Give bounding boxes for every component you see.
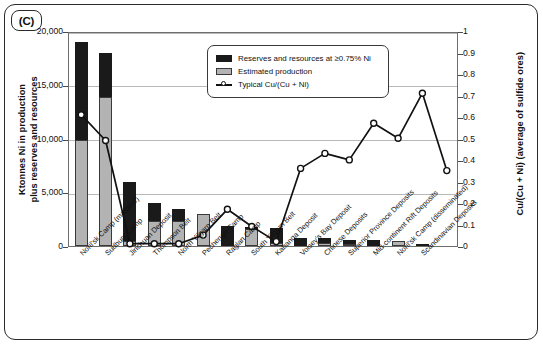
x-axis-category-labels: Noril'sk Camp (massive)Sudbury CampJinch… <box>68 247 458 342</box>
y-axis-right-tick-label: 0.5 <box>463 134 503 144</box>
y-axis-left-tick-label: 0 <box>3 241 63 251</box>
y-axis-left-tick-label: 5,000 <box>3 187 63 197</box>
y-axis-right-tick-label: 0.7 <box>463 91 503 101</box>
cu-ratio-marker <box>444 168 450 174</box>
black-square-icon <box>216 55 232 62</box>
figure-panel: (C) Ktonnes Ni in production plus reserv… <box>0 0 543 345</box>
y-axis-left-tick-label: 10,000 <box>3 134 63 144</box>
y-axis-right-tick-label: 0 <box>463 241 503 251</box>
legend-item-reserves: Reserves and resources at ≥0.75% Ni <box>216 52 380 65</box>
y-axis-right-tick-label: 0.1 <box>463 220 503 230</box>
cu-ratio-marker <box>78 112 84 118</box>
legend-item-cu-ratio: Typical Cu/(Cu + Ni) <box>216 78 380 91</box>
y-axis-left-tick-label: 15,000 <box>3 80 63 90</box>
chart-legend: Reserves and resources at ≥0.75% Ni Esti… <box>207 45 389 98</box>
gray-square-icon <box>216 68 232 75</box>
y-axis-right-tick-label: 1 <box>463 26 503 36</box>
cu-ratio-marker <box>395 135 401 141</box>
cu-ratio-marker <box>224 206 230 212</box>
y-axis-right-tick-label: 0.6 <box>463 112 503 122</box>
line-marker-icon <box>216 80 232 89</box>
y-axis-left-tick-label: 20,000 <box>3 26 63 36</box>
y-axis-right-tick-label: 0.3 <box>463 177 503 187</box>
cu-ratio-marker <box>298 165 304 171</box>
cu-ratio-marker <box>273 239 279 245</box>
cu-ratio-marker <box>371 120 377 126</box>
y-axis-right-tick-label: 0.8 <box>463 69 503 79</box>
cu-ratio-marker <box>322 150 328 156</box>
cu-ratio-marker <box>103 138 109 144</box>
cu-ratio-marker <box>346 157 352 163</box>
y-axis-right-title: Cu/(Cu + Ni) (average of sulfide ores) <box>515 34 527 234</box>
y-axis-right-tick-label: 0.9 <box>463 48 503 58</box>
y-axis-right-tick-label: 0.4 <box>463 155 503 165</box>
cu-ratio-marker <box>419 90 425 96</box>
legend-item-production: Estimated production <box>216 65 380 78</box>
legend-label-reserves: Reserves and resources at ≥0.75% Ni <box>238 54 371 63</box>
legend-label-cu-ratio: Typical Cu/(Cu + Ni) <box>238 80 309 89</box>
legend-label-production: Estimated production <box>238 67 312 76</box>
